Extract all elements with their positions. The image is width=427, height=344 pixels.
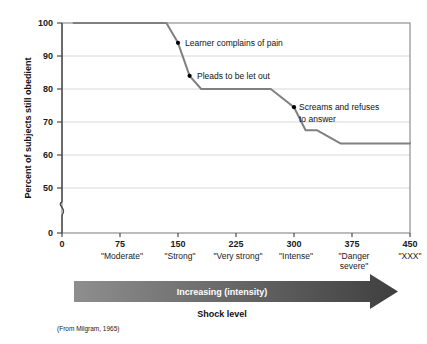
x-tick-label-300: 300: [286, 239, 301, 249]
x-category-label-danger-severe-line1: "Danger: [339, 251, 370, 261]
annotation-marker-pleads-to-be-let-out: [188, 74, 192, 78]
x-category-label-intense: "Intense": [279, 251, 313, 261]
x-category-label-strong: "Strong": [164, 251, 195, 261]
chart-canvas: 100 90 80 70 60 50 0 Percent of subjects…: [0, 0, 427, 344]
annotation-marker-screams-and-refuses: [292, 105, 296, 109]
x-tick-label-450: 450: [402, 239, 417, 249]
plot-area-background: [62, 23, 410, 233]
y-tick-label-50: 50: [43, 183, 53, 193]
x-tick-label-375: 375: [344, 239, 359, 249]
y-tick-label-100: 100: [38, 18, 53, 28]
annotation-label-screams-line2: to answer: [299, 114, 336, 124]
y-tick-label-90: 90: [43, 51, 53, 61]
x-tick-label-150: 150: [170, 239, 185, 249]
y-tick-marks: [57, 23, 62, 233]
x-category-label-danger-severe-line2: severe": [340, 261, 369, 271]
y-axis-title: Percent of subjects still obedient: [23, 57, 33, 198]
annotation-label-screams-line1: Screams and refuses: [299, 102, 379, 112]
y-tick-label-0: 0: [48, 228, 53, 238]
y-tick-label-80: 80: [43, 84, 53, 94]
x-category-label-moderate: "Moderate": [101, 251, 143, 261]
annotation-label-pleads-to-be-let-out: Pleads to be let out: [197, 71, 270, 81]
increasing-intensity-arrow: Increasing (intensity): [74, 274, 398, 309]
x-category-label-xxx: "XXX": [398, 251, 421, 261]
milgram-obedience-figure: 100 90 80 70 60 50 0 Percent of subjects…: [0, 0, 427, 344]
annotation-marker-learner-complains: [176, 41, 180, 45]
arrow-banner-label: Increasing (intensity): [177, 287, 268, 297]
x-tick-marks: [62, 233, 410, 237]
annotation-label-learner-complains: Learner complains of pain: [185, 38, 283, 48]
source-citation: (From Milgram, 1965): [57, 325, 119, 333]
y-tick-label-70: 70: [43, 117, 53, 127]
x-axis-title: Shock level: [197, 309, 247, 319]
x-tick-label-225: 225: [228, 239, 243, 249]
x-tick-label-75: 75: [115, 239, 125, 249]
x-tick-label-0: 0: [59, 239, 64, 249]
x-category-label-very-strong: "Very strong": [213, 251, 262, 261]
y-tick-label-60: 60: [43, 150, 53, 160]
